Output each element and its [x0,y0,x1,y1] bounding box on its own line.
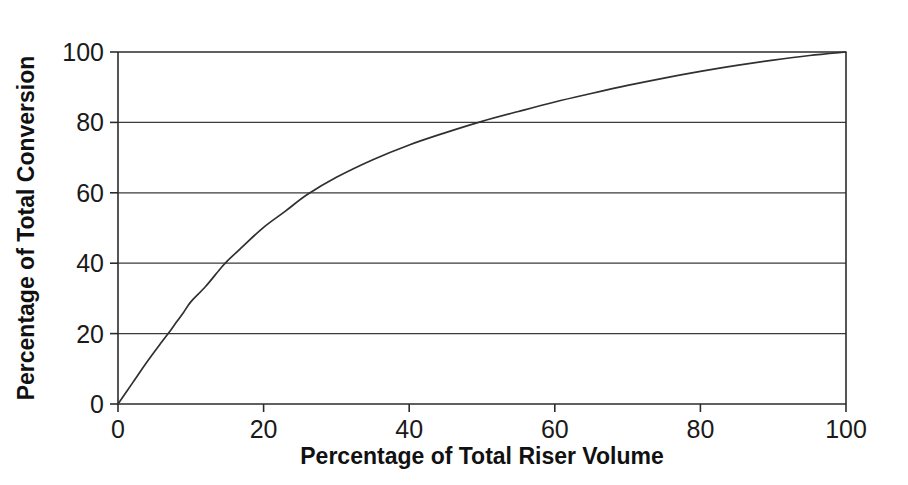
y-tick-label-20: 20 [76,320,104,348]
x-tick-label-100: 100 [825,415,867,443]
y-tick-label-100: 100 [62,38,104,66]
y-tick-label-0: 0 [90,390,104,418]
x-tick-label-0: 0 [111,415,125,443]
x-axis-title: Percentage of Total Riser Volume [300,443,663,469]
x-tick-label-60: 60 [541,415,569,443]
x-tick-label-40: 40 [395,415,423,443]
x-tick-label-20: 20 [250,415,278,443]
line-chart: 020406080100 020406080100 Percentage of … [0,0,908,485]
y-axis-title: Percentage of Total Conversion [13,56,39,401]
chart-figure: 020406080100 020406080100 Percentage of … [0,0,908,485]
x-tick-label-80: 80 [686,415,714,443]
y-tick-label-80: 80 [76,108,104,136]
y-tick-label-60: 60 [76,179,104,207]
y-tick-label-40: 40 [76,249,104,277]
chart-background [0,0,908,485]
